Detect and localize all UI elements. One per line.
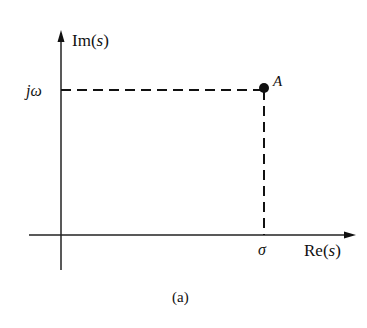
imaginary-axis-arrow-icon xyxy=(58,30,65,42)
j-omega-label: jω xyxy=(24,82,42,100)
point-a-label: A xyxy=(272,73,283,89)
caption: (a) xyxy=(172,289,189,306)
real-axis-label: Re(s) xyxy=(304,241,341,260)
imaginary-axis-label: Im(s) xyxy=(72,31,109,50)
sigma-label: σ xyxy=(258,241,267,258)
real-axis-arrow-icon xyxy=(344,232,356,239)
point-a-marker xyxy=(259,83,269,93)
s-plane-diagram: A Im(s) jω σ Re(s) (a) xyxy=(0,0,367,328)
